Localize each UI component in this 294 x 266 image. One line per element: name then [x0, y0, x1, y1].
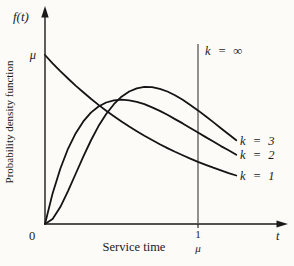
chart-canvas: f(t) μ Probability density function 0 t … [0, 0, 294, 266]
x-tick-numerator: 1 [195, 228, 201, 240]
curve-k3 [45, 87, 236, 224]
curves-group [45, 55, 236, 224]
curve-label-k2: k = 2 [240, 148, 274, 162]
x-axis-arrow-icon [277, 220, 289, 227]
origin-label: 0 [29, 229, 35, 243]
curve-label-k1: k = 1 [240, 169, 274, 183]
k-infinity-label: k = ∞ [205, 44, 242, 58]
axes-group [41, 6, 288, 228]
erlang-service-time-density-figure: f(t) μ Probability density function 0 t … [0, 0, 294, 266]
y-axis-arrow-icon [41, 6, 48, 18]
y-axis-title: Probability density function [3, 60, 15, 183]
x-axis-title: Service time [103, 240, 166, 254]
curve-label-k3: k = 3 [240, 134, 274, 148]
mu-intercept-label: μ [29, 48, 36, 62]
y-axis-symbol-label: f(t) [13, 9, 29, 24]
x-tick-denominator: μ [194, 242, 201, 254]
x-axis-symbol-label: t [276, 229, 280, 243]
curve-k1 [45, 55, 236, 176]
